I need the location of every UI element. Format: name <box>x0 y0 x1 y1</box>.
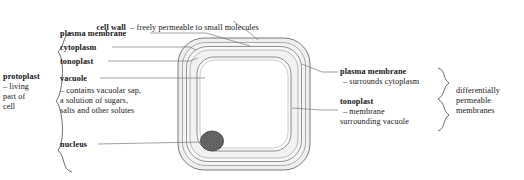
label-vacuole-detail-3: salts and other solutes <box>60 106 134 116</box>
label-protoplast-detail-2: part of <box>3 92 25 102</box>
label-tonoplast-right-detail-1: – membrane <box>343 107 385 117</box>
label-vacuole-term: vacuole <box>60 74 87 84</box>
label-tonoplast-right-term: tonoplast <box>340 97 373 107</box>
label-plasma-membrane-right-term: plasma membrane <box>340 67 406 77</box>
label-protoplast-detail-3: cell <box>3 102 15 112</box>
label-protoplast-term: protoplast <box>3 72 40 82</box>
label-differentially-permeable-3: membranes <box>456 106 495 116</box>
label-plasma-membrane-right-detail-1: – surrounds cytoplasm <box>343 77 419 87</box>
diagram-canvas: cell wall – freely permeable to small mo… <box>0 0 524 180</box>
nucleus <box>201 131 224 151</box>
label-plasma-membrane-left: plasma membrane <box>60 29 126 39</box>
right-curly-brace <box>438 68 449 131</box>
label-vacuole-detail-1: – contains vacuolar sap, <box>60 86 141 96</box>
label-differentially-permeable-1: differentially <box>456 86 500 96</box>
label-cell-wall-description: freely permeable to small molecules <box>137 23 259 32</box>
label-nucleus: nucleus <box>60 140 87 150</box>
label-tonoplast-left: tonoplast <box>60 57 93 67</box>
label-cytoplasm: cytoplasm <box>60 43 96 53</box>
label-protoplast-detail-1: – living <box>3 82 29 92</box>
label-vacuole-detail-2: a solution of sugars, <box>60 96 128 106</box>
label-tonoplast-right-detail-2: surrounding vacuole <box>340 117 409 127</box>
label-differentially-permeable-2: permeable <box>456 96 491 106</box>
